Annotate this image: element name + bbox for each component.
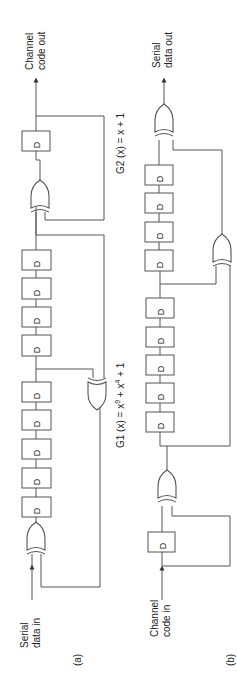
serial-data-out-label-line2: data out — [163, 32, 174, 68]
g1-xor-gate-icon — [88, 378, 106, 410]
register-chain-lower — [146, 271, 174, 432]
syndrome-xor-gate-icon — [213, 234, 231, 266]
d-label: D — [32, 420, 42, 427]
input-xor-gate-icon — [158, 470, 176, 502]
g2-equation: G2 (x) = x + 1 — [115, 112, 126, 174]
d-label: D — [32, 260, 42, 267]
d-label: D — [32, 478, 42, 485]
input-xor-gate-icon — [27, 522, 45, 554]
panel-a-caption: (a) — [72, 654, 83, 666]
d-label: D — [32, 507, 42, 514]
g1-equation: G1 (x) = x9 + x4 + 1 — [114, 362, 126, 448]
serial-data-in-label-line2: data in — [31, 618, 42, 648]
panel-b-caption: (b) — [225, 654, 236, 666]
panel-a-encoder — [22, 80, 106, 600]
d-label: D — [32, 449, 42, 456]
d-label: D — [32, 141, 42, 148]
d-label: D — [156, 337, 166, 344]
d-label: D — [156, 308, 166, 315]
d-label: D — [32, 289, 42, 296]
d-label: D — [158, 542, 168, 549]
d-label: D — [156, 422, 166, 429]
d-label: D — [156, 393, 166, 400]
serial-data-in-label-line1: Serial — [19, 622, 30, 648]
d-label: D — [32, 317, 42, 324]
d-label: D — [156, 365, 166, 372]
channel-code-in-label-line1: Channel — [149, 600, 160, 637]
channel-code-out-label-line1: Channel — [24, 33, 35, 70]
output-xor-gate-icon — [155, 104, 173, 136]
d-label: D — [155, 232, 165, 239]
encoder-decoder-diagram: D D D D D D D D D D Serial data in Chann… — [0, 0, 237, 674]
serial-data-out-label-line1: Serial — [151, 42, 162, 68]
d-label: D — [155, 203, 165, 210]
d-label: D — [155, 175, 165, 182]
channel-code-out-label-line2: code out — [36, 31, 47, 70]
d-label: D — [32, 346, 42, 353]
g2-xor-gate-icon — [31, 180, 49, 212]
d-label: D — [32, 392, 42, 399]
register-chain-lower — [22, 356, 51, 517]
channel-code-in-label-line2: code in — [161, 605, 172, 637]
d-label: D — [155, 261, 165, 268]
